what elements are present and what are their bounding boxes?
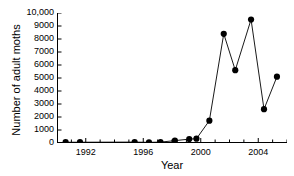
- data-point: [232, 67, 238, 73]
- y-axis-tick-label: 10,000: [18, 8, 54, 17]
- plot-svg: [57, 13, 287, 143]
- y-axis-tick-label: 3000: [18, 99, 54, 108]
- data-point: [206, 118, 212, 124]
- y-axis-tick-label: 4000: [18, 86, 54, 95]
- data-point: [63, 139, 69, 143]
- data-point: [221, 31, 227, 37]
- moth-population-line-chart: Number of adult moths 010002000300040005…: [0, 0, 294, 176]
- x-axis-tick-label: 1996: [123, 147, 163, 158]
- data-point: [274, 74, 280, 80]
- data-point: [157, 139, 163, 143]
- y-axis-tick-label: 5000: [18, 73, 54, 82]
- data-point: [261, 106, 267, 112]
- x-axis-title: Year: [57, 159, 287, 172]
- plot-area: [57, 13, 287, 143]
- y-axis-tick-label: 6000: [18, 60, 54, 69]
- data-markers: [63, 16, 281, 143]
- data-line: [66, 20, 277, 143]
- data-point: [193, 136, 199, 142]
- y-axis-tick-label: 1000: [18, 125, 54, 134]
- data-point: [248, 16, 254, 22]
- y-axis-tick-label: 2000: [18, 112, 54, 121]
- data-point: [146, 139, 152, 143]
- x-axis-tick-label: 2004: [238, 147, 278, 158]
- data-point: [186, 136, 192, 142]
- y-axis-tick-label: 7000: [18, 47, 54, 56]
- data-point: [172, 138, 178, 143]
- data-point: [132, 139, 138, 143]
- x-axis-tick-label: 1992: [66, 147, 106, 158]
- y-axis-tick-label: 8000: [18, 34, 54, 43]
- y-axis-tick-label: 0: [18, 138, 54, 147]
- data-point: [77, 139, 83, 143]
- y-axis-tick-label: 9000: [18, 21, 54, 30]
- y-axis-ticks: [58, 13, 62, 143]
- x-axis-tick-label: 2000: [181, 147, 221, 158]
